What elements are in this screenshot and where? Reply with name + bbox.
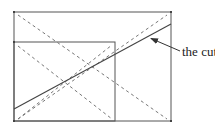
cut-label: the cut: [182, 44, 215, 60]
cut-diagram: [0, 0, 215, 132]
inner-diagonal-1: [18, 46, 112, 119]
arrow-icon: [151, 39, 180, 52]
cut-line: [14, 24, 171, 109]
